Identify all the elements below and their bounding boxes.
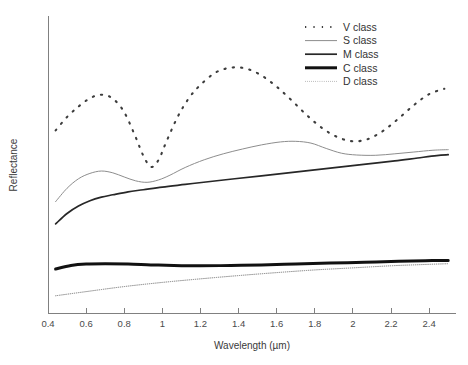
x-tick-label: 1.6 (270, 318, 283, 329)
x-tick-label: 1 (160, 318, 165, 329)
x-tick-label: 1.2 (194, 318, 207, 329)
legend-label-v-class: V class (343, 21, 377, 33)
legend-label-c-class: C class (343, 62, 377, 74)
x-tick-label: 2 (350, 318, 355, 329)
x-axis-title: Wavelength (µm) (214, 340, 290, 351)
series-line-c-class (56, 260, 449, 269)
legend-label-d-class: D class (343, 75, 377, 87)
chart-figure: 0.40.60.811.21.41.61.822.22.4 Wavelength… (0, 0, 468, 365)
legend-label-m-class: M class (343, 48, 379, 60)
x-tick-label: 2.4 (423, 318, 436, 329)
chart-legend: V classS classM classC classD class (305, 21, 379, 87)
reflectance-spectra-chart: 0.40.60.811.21.41.61.822.22.4 Wavelength… (0, 0, 468, 365)
x-tick-label: 0.6 (80, 318, 93, 329)
y-axis-title: Reflectance (8, 138, 19, 191)
x-tick-label: 0.4 (41, 318, 54, 329)
legend-label-s-class: S class (343, 34, 377, 46)
series-layer (56, 67, 449, 295)
series-line-v-class (56, 67, 445, 167)
series-line-s-class (56, 141, 449, 201)
x-tick-label: 0.8 (118, 318, 131, 329)
series-line-d-class (56, 264, 449, 296)
axes-layer: 0.40.60.811.21.41.61.822.22.4 (41, 16, 456, 329)
x-tick-label: 2.2 (384, 318, 397, 329)
x-tick-label: 1.8 (308, 318, 321, 329)
x-axis-ticks: 0.40.60.811.21.41.61.822.22.4 (41, 308, 435, 329)
series-line-m-class (56, 155, 449, 224)
x-tick-label: 1.4 (232, 318, 245, 329)
